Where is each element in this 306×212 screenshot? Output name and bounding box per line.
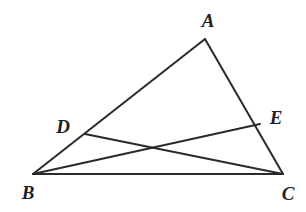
cevians xyxy=(33,124,283,174)
vertex-label-B: B xyxy=(22,183,35,202)
geometry-figure: A B C D E xyxy=(0,0,306,212)
vertex-label-C: C xyxy=(282,184,295,203)
vertex-label-A: A xyxy=(202,11,215,30)
vertex-label-E: E xyxy=(270,108,283,127)
triangle-outline xyxy=(33,39,283,174)
vertex-label-D: D xyxy=(56,117,70,136)
geometry-canvas xyxy=(0,0,306,212)
